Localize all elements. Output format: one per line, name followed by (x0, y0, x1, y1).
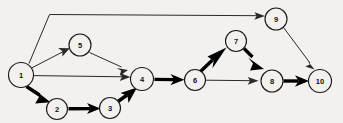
edge-8-to-10 (284, 75, 310, 86)
node-3-label: 3 (108, 104, 112, 113)
edge-4-to-6 (155, 74, 185, 85)
node-7[interactable]: 7 (226, 31, 247, 52)
edge-5-to-4 (90, 53, 129, 76)
network-diagram: 1 2 3 4 5 6 (0, 0, 343, 123)
edge-7-to-8 (244, 49, 264, 71)
node-10[interactable]: 10 (309, 70, 332, 93)
edge-1-to-2 (27, 87, 51, 104)
graph-canvas: 1 2 3 4 5 6 (0, 0, 343, 123)
node-5-label: 5 (78, 41, 82, 50)
node-4[interactable]: 4 (131, 68, 154, 91)
node-6[interactable]: 6 (185, 70, 206, 91)
node-8-label: 8 (270, 77, 274, 86)
node-layer: 1 2 3 4 5 6 (9, 8, 332, 120)
edge-1-to-5 (32, 48, 70, 68)
node-9[interactable]: 9 (265, 8, 287, 30)
edge-6-to-8 (206, 77, 259, 85)
node-5[interactable]: 5 (69, 34, 91, 56)
node-9-label: 9 (274, 15, 278, 24)
edge-2-to-3 (69, 103, 101, 114)
node-2-label: 2 (55, 105, 59, 114)
edge-3-to-4 (118, 88, 137, 104)
node-3[interactable]: 3 (100, 98, 121, 119)
node-6-label: 6 (193, 76, 197, 85)
node-1[interactable]: 1 (9, 63, 34, 88)
edge-1-to-4 (34, 73, 131, 81)
edge-9-to-10 (284, 28, 315, 70)
node-1-label: 1 (19, 71, 23, 80)
edge-6-to-7 (201, 48, 227, 72)
node-2[interactable]: 2 (47, 99, 68, 120)
node-8[interactable]: 8 (261, 70, 283, 92)
node-10-label: 10 (316, 77, 324, 86)
node-7-label: 7 (234, 37, 238, 46)
